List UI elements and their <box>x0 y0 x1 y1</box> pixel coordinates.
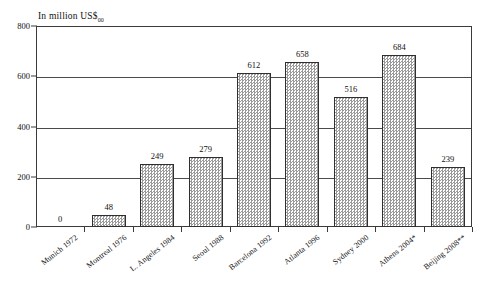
bar <box>334 97 368 227</box>
bar <box>189 157 223 227</box>
x-axis-category-label: Montreal 1976 <box>84 233 128 270</box>
x-axis-category-label: Atlanta 1996 <box>283 233 322 266</box>
bar-value-label: 0 <box>58 214 62 224</box>
y-axis-title: In million US$00 <box>38 11 104 23</box>
y-axis-tick-label: 400 <box>0 122 30 132</box>
bar <box>92 215 126 227</box>
x-axis-category-label: L. Angeles 1984 <box>128 233 176 273</box>
bars-layer: 048249279612658516684239 <box>36 26 472 227</box>
bar-value-label: 684 <box>393 42 406 52</box>
bar-group: 516 <box>327 26 375 227</box>
x-axis-category-label: Athens 2004* <box>377 233 419 268</box>
bar-group: 0 <box>36 26 84 227</box>
bar <box>431 167 465 227</box>
bar-chart: In million US$00 0200400600800 048249279… <box>0 0 490 295</box>
bar-value-label: 612 <box>248 60 261 70</box>
bar-value-label: 516 <box>345 84 358 94</box>
bar <box>382 55 416 227</box>
bar-group: 684 <box>375 26 423 227</box>
x-axis-category-label: Barcelona 1992 <box>227 233 273 272</box>
bar-group: 239 <box>424 26 472 227</box>
y-axis-tick-label: 800 <box>0 21 30 31</box>
bar-group: 612 <box>230 26 278 227</box>
bar-group: 48 <box>84 26 132 227</box>
bar-value-label: 249 <box>151 151 164 161</box>
bar-value-label: 658 <box>296 49 309 59</box>
bar <box>140 164 174 227</box>
y-axis-tick-label: 600 <box>0 71 30 81</box>
bar-group: 249 <box>133 26 181 227</box>
x-axis-category-label: Seoul 1988 <box>190 233 225 263</box>
x-axis-category-label: Munich 1972 <box>40 233 80 267</box>
y-axis-title-text: In million US$ <box>38 11 98 21</box>
x-axis-category-label: Beijing 2008** <box>422 233 468 271</box>
bar <box>237 73 271 227</box>
bar-value-label: 279 <box>199 144 212 154</box>
y-axis-title-subscript: 00 <box>98 17 104 23</box>
bar-value-label: 48 <box>104 202 113 212</box>
bar-group: 658 <box>278 26 326 227</box>
bar-group: 279 <box>181 26 229 227</box>
x-axis-labels: Munich 1972Montreal 1976L. Angeles 1984S… <box>0 227 490 295</box>
x-axis-category-label: Sydney 2000 <box>331 233 371 267</box>
bar <box>285 62 319 227</box>
bar-value-label: 239 <box>441 154 454 164</box>
y-axis-tick-label: 200 <box>0 172 30 182</box>
